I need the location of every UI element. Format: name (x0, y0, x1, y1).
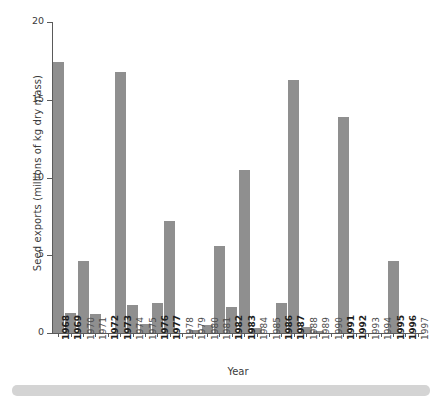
x-tick-mark (418, 333, 419, 337)
x-tick-mark (83, 333, 84, 337)
x-tick-label: 1991 (347, 315, 356, 340)
x-tick-label: 1988 (310, 317, 319, 340)
y-tick-mark (47, 22, 52, 23)
bar (239, 170, 250, 333)
x-tick-label: 1968 (62, 315, 71, 340)
y-tick-label: 0 (38, 327, 44, 337)
x-tick-mark (108, 333, 109, 337)
bar (338, 117, 349, 333)
x-tick-mark (71, 333, 72, 337)
x-tick-label: 1975 (149, 317, 158, 340)
x-tick-label: 1995 (397, 315, 406, 340)
x-tick-mark (269, 333, 270, 337)
x-tick-label: 1971 (99, 317, 108, 340)
x-tick-mark (257, 333, 258, 337)
bar (53, 62, 64, 333)
x-tick-mark (294, 333, 295, 337)
y-tick-label: 5 (38, 249, 44, 259)
x-tick-label: 1982 (235, 315, 244, 340)
x-tick-mark (207, 333, 208, 337)
y-tick-mark (47, 255, 52, 256)
x-tick-mark (244, 333, 245, 337)
x-tick-label: 1984 (260, 317, 269, 340)
bar (115, 72, 126, 333)
x-tick-label: 1985 (273, 317, 282, 340)
y-tick-mark (47, 178, 52, 179)
x-tick-label: 1987 (297, 315, 306, 340)
x-tick-mark (319, 333, 320, 337)
x-tick-label: 1983 (248, 315, 257, 340)
x-tick-label: 1978 (186, 317, 195, 340)
x-tick-label: 1989 (322, 317, 331, 340)
bottom-decorative-band (12, 385, 430, 396)
plot-area: 05101520 1968196919701971197219731974197… (52, 22, 424, 333)
seed-exports-bar-chart: Seed exports (millions of kg dry mass) 0… (0, 0, 442, 398)
bar (288, 80, 299, 333)
x-tick-label: 1980 (211, 317, 220, 340)
x-axis-title: Year (52, 367, 424, 377)
y-tick-label: 10 (32, 172, 44, 182)
x-tick-mark (120, 333, 121, 337)
y-tick-mark (47, 100, 52, 101)
x-tick-mark (393, 333, 394, 337)
y-tick: 10 (47, 178, 52, 179)
x-tick-mark (58, 333, 59, 337)
x-tick-mark (195, 333, 196, 337)
y-tick-label: 15 (32, 94, 44, 104)
x-tick-label: 1993 (372, 317, 381, 340)
x-tick-label: 1994 (384, 317, 393, 340)
x-tick-label: 1969 (74, 315, 83, 340)
x-tick-label: 1981 (223, 317, 232, 340)
x-tick-label: 1990 (335, 317, 344, 340)
x-tick-mark (145, 333, 146, 337)
y-tick: 20 (47, 22, 52, 23)
x-tick-mark (170, 333, 171, 337)
x-tick-label: 1970 (87, 317, 96, 340)
y-tick-label: 20 (32, 16, 44, 26)
x-tick-mark (232, 333, 233, 337)
y-tick: 5 (47, 255, 52, 256)
x-tick-label: 1977 (173, 315, 182, 340)
y-tick-mark (47, 333, 52, 334)
x-tick-mark (381, 333, 382, 337)
x-tick-label: 1997 (421, 317, 430, 340)
x-tick-mark (356, 333, 357, 337)
x-tick-label: 1986 (285, 315, 294, 340)
x-tick-mark (306, 333, 307, 337)
x-tick-label: 1972 (111, 315, 120, 340)
x-tick-mark (368, 333, 369, 337)
x-tick-label: 1996 (409, 315, 418, 340)
y-tick: 15 (47, 100, 52, 101)
x-tick-label: 1979 (198, 317, 207, 340)
x-tick-label: 1992 (359, 315, 368, 340)
x-tick-mark (182, 333, 183, 337)
x-tick-label: 1973 (124, 315, 133, 340)
x-tick-label: 1976 (161, 315, 170, 340)
y-tick: 0 (47, 333, 52, 334)
x-tick-mark (331, 333, 332, 337)
x-tick-label: 1974 (136, 317, 145, 340)
x-tick-mark (133, 333, 134, 337)
